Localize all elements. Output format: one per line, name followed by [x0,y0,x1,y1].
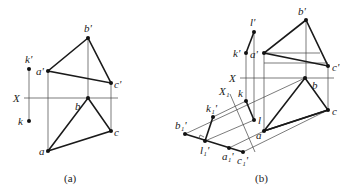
axis-label-x1: X₁ [218,85,230,97]
label-b: b [312,79,318,91]
label-a1-prime: a₁' [222,150,234,162]
label-a-prime: a' [36,65,45,77]
label-b1-prime: b₁' [175,119,187,131]
line-kl-auxiliary [205,117,213,141]
label-k: k [238,87,244,99]
label-a: a [39,145,45,157]
label-l1-prime: l₁' [200,144,210,156]
triangle-front-view [264,20,328,66]
triangle-edge-view [185,134,243,152]
axis-label-x: X [228,72,237,84]
triangle-front-view [48,38,111,83]
label-a: a [256,129,262,141]
label-k-prime: k' [233,47,241,59]
label-b-prime: b' [84,22,93,34]
label-c-prime: c' [114,78,122,90]
projection-diagram: b' a' c' k' k b c a X (a) [0,0,346,194]
label-c-prime: c' [332,61,340,73]
panel-b: b' a' c' l' k' b c a k l b₁' l₁' a₁' c₁'… [175,5,340,185]
triangle-top-view [264,78,328,131]
label-b: b [75,100,81,112]
axis-label-x: X [12,92,21,104]
caption-a: (a) [64,172,77,185]
label-k1-prime: k₁' [206,102,218,114]
label-c: c [114,126,119,138]
label-k: k [18,115,24,127]
label-l-prime: l' [250,16,256,28]
label-c1-prime: c₁' [237,154,249,166]
label-c: c [332,105,337,117]
caption-b: (b) [255,172,268,185]
label-k-prime: k' [25,53,33,65]
label-b-prime: b' [298,5,307,17]
panel-a: b' a' c' k' k b c a X (a) [12,22,122,185]
label-l: l [258,114,261,126]
label-a-prime: a' [250,48,259,60]
